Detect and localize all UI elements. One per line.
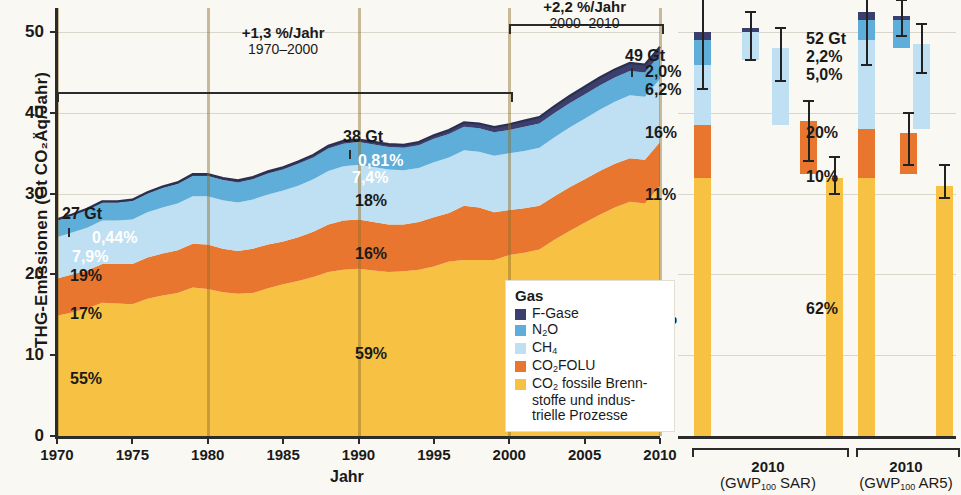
legend-title: Gas: [515, 287, 665, 304]
error-bar: [921, 24, 923, 72]
legend-swatch-icon: [515, 361, 526, 372]
legend-item-label: F-Gase: [532, 306, 579, 321]
share-label: 2,0%: [645, 63, 681, 81]
share-label: 0,44%: [92, 229, 137, 247]
x-axis-line-panels: [678, 436, 956, 439]
error-bar-cap: [803, 100, 814, 102]
x-tick-label: 1985: [253, 446, 313, 463]
x-tick-label: 1975: [102, 446, 162, 463]
error-bar: [944, 165, 946, 197]
x-axis-line: [55, 436, 660, 439]
legend-swatch-icon: [515, 379, 526, 390]
error-bar-cap: [829, 156, 840, 158]
error-bar-cap: [896, 35, 907, 37]
share-label: 55%: [70, 370, 102, 388]
error-bar-cap: [803, 160, 814, 162]
panel-group-brace: [692, 448, 849, 457]
share-label: 0,81%: [358, 152, 403, 170]
panel-share-label: 2,2%: [806, 48, 842, 66]
legend-item-label: CH4: [532, 340, 557, 357]
error-bar-cap: [829, 193, 840, 195]
error-bar-cap: [775, 80, 786, 82]
x-tick-label: 1980: [178, 446, 238, 463]
error-bar-cap: [697, 88, 708, 90]
legend-item: CO2FOLU: [515, 358, 665, 375]
error-bar-cap: [903, 112, 914, 114]
growth-rate-label: +1,3 %/Jahr: [203, 24, 363, 41]
total-label-tick: [68, 228, 70, 237]
total-label-tick: [349, 150, 351, 159]
total-label-1970: 27 Gt: [62, 205, 102, 223]
x-tick-label: 2000: [479, 446, 539, 463]
panel-share-label: 5,0%: [806, 66, 842, 84]
legend-item-label: N2O: [532, 322, 558, 339]
error-bar: [780, 28, 782, 80]
legend-items: F-GaseN2OCH4CO2FOLUCO2 fossile Brenn-sto…: [515, 306, 665, 423]
y-axis-line: [55, 8, 58, 438]
bar-segment: [694, 125, 711, 177]
x-tick-label: 2005: [555, 446, 615, 463]
legend-swatch-icon: [515, 325, 526, 336]
legend-item: CO2 fossile Brenn-stoffe und indus-triel…: [515, 376, 665, 423]
panel-share-label: 62%: [806, 300, 838, 318]
share-label: 16%: [645, 124, 677, 142]
legend-swatch-icon: [515, 343, 526, 354]
legend-item: N2O: [515, 322, 665, 339]
year-marker-1990: [358, 8, 361, 436]
bar-segment: [694, 178, 711, 436]
x-tick-label: 1990: [329, 446, 389, 463]
figure-root: THG-Emissionen (Gt CO₂Äq/Jahr) 010203040…: [0, 0, 961, 495]
panel-group-metric: (GWP100 SAR): [708, 474, 828, 491]
growth-bracket: [57, 92, 513, 102]
growth-period-label: 1970–2000: [203, 41, 363, 57]
error-bar-cap: [903, 164, 914, 166]
error-bar: [702, 0, 704, 89]
bar-segment: [936, 186, 953, 436]
share-label: 7,4%: [352, 169, 388, 187]
total-label-tick: [631, 68, 633, 77]
panel-group-year: 2010: [718, 458, 818, 475]
total-label-1990: 38 Gt: [343, 128, 383, 146]
share-label: 11%: [645, 186, 676, 204]
error-bar-cap: [939, 197, 950, 199]
share-label: 59%: [355, 345, 387, 363]
share-label: 18%: [355, 192, 387, 210]
error-bar: [901, 0, 903, 36]
share-label: 19%: [70, 267, 102, 285]
growth-period-label: 2000–2010: [505, 15, 665, 31]
legend-item-label: CO2FOLU: [532, 358, 595, 375]
error-bar-cap: [861, 64, 872, 66]
error-bar-cap: [775, 27, 786, 29]
share-label: 6,2%: [645, 81, 681, 99]
x-tick-label: 1970: [27, 446, 87, 463]
legend: Gas F-GaseN2OCH4CO2FOLUCO2 fossile Brenn…: [505, 280, 675, 432]
panel-group-brace: [856, 448, 960, 457]
error-bar-cap: [745, 11, 756, 13]
bar-segment: [858, 129, 875, 177]
legend-item: CH4: [515, 340, 665, 357]
legend-item-label: CO2 fossile Brenn-stoffe und indus-triel…: [532, 376, 648, 423]
error-bar: [908, 113, 910, 165]
error-bar-cap: [745, 59, 756, 61]
error-bar-cap: [916, 72, 927, 74]
x-tick-label: 1995: [404, 446, 464, 463]
x-axis-title: Jahr: [330, 468, 364, 486]
legend-item: F-Gase: [515, 306, 665, 321]
growth-rate-label: +2,2 %/Jahr: [505, 0, 665, 15]
share-label: 16%: [355, 245, 387, 263]
panel-share-label: 20%: [806, 124, 838, 142]
panel-group-year: 2010: [856, 458, 956, 475]
panel-group-metric: (GWP100 AR5): [846, 474, 961, 491]
panel-share-label: 10%: [806, 168, 838, 186]
bar-segment: [858, 178, 875, 436]
error-bar: [866, 0, 868, 65]
share-label: 7,9%: [72, 248, 108, 266]
error-bar: [750, 12, 752, 60]
legend-swatch-icon: [515, 309, 526, 320]
error-bar-cap: [939, 164, 950, 166]
share-label: 17%: [70, 305, 102, 323]
x-tick-label: 2010: [630, 446, 690, 463]
year-marker-1980: [207, 8, 210, 436]
panel-total-label: 52 Gt: [806, 30, 846, 48]
error-bar-cap: [916, 23, 927, 25]
